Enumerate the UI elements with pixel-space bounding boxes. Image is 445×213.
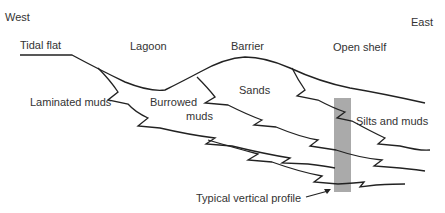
typical-vertical-profile-label: Typical vertical profile	[196, 193, 301, 204]
silts-and-muds-label: Silts and muds	[356, 116, 428, 127]
facies-cross-section-diagram: West East Tidal flat Lagoon Barrier Open…	[0, 0, 445, 213]
sands-label: Sands	[239, 85, 270, 96]
lagoon-label: Lagoon	[130, 41, 167, 52]
tidal-flat-label: Tidal flat	[20, 40, 61, 51]
barrier-label: Barrier	[231, 41, 264, 52]
vertical-profile-bar	[334, 98, 351, 192]
burrowed-muds-label-line2: muds	[186, 111, 213, 122]
sands-silts-boundary	[292, 68, 430, 150]
burrowed-muds-label-line1: Burrowed	[150, 97, 197, 108]
open-shelf-label: Open shelf	[333, 42, 386, 53]
laminated-muds-label: Laminated muds	[30, 97, 111, 108]
direction-east-label: East	[411, 17, 433, 28]
direction-west-label: West	[5, 12, 30, 23]
laminated-burrowed-boundary	[98, 68, 335, 168]
annotation-arrow-line	[306, 191, 328, 197]
